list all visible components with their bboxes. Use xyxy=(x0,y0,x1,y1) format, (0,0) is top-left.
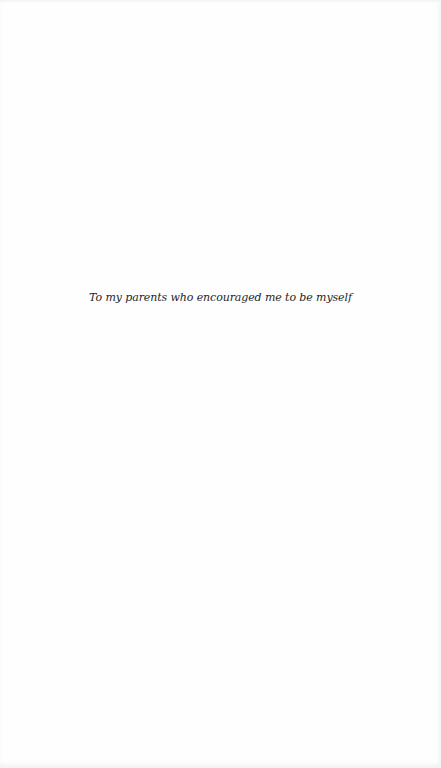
page-edge-right xyxy=(437,0,441,768)
book-page: To my parents who encouraged me to be my… xyxy=(0,0,441,768)
page-edge-bottom xyxy=(0,762,441,768)
page-edge-top xyxy=(0,0,441,3)
dedication-text: To my parents who encouraged me to be my… xyxy=(0,289,441,307)
